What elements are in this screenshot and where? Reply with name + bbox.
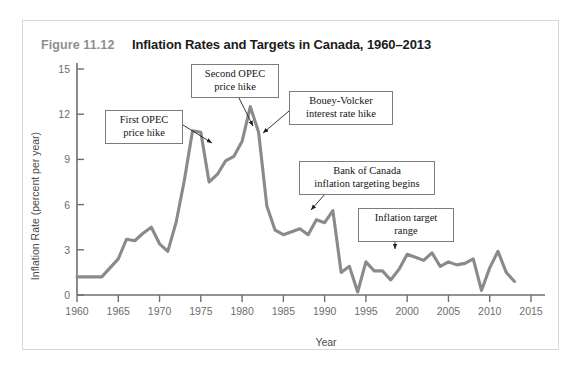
annotation-bouey-volcker: Bouey-Volcker interest rate hike — [289, 91, 393, 125]
x-tick-1965: 1965 — [107, 305, 131, 317]
y-tick-12: 12 — [58, 108, 70, 120]
x-axis-title: Year — [315, 336, 337, 348]
x-tick-2010: 2010 — [478, 305, 502, 317]
annotation-second-opec: Second OPEC price hike — [191, 64, 279, 98]
annotation-bank-of-canada-line2: inflation targeting begins — [305, 178, 429, 191]
x-tick-2000: 2000 — [396, 305, 420, 317]
annotation-first-opec-line1: First OPEC — [111, 114, 177, 127]
y-tick-9: 9 — [64, 153, 70, 165]
y-axis-title: Inflation Rate (percent per year) — [29, 132, 41, 280]
annotation-bank-of-canada: Bank of Canada inflation targeting begin… — [299, 161, 435, 195]
x-tick-2015: 2015 — [519, 305, 543, 317]
annotation-first-opec-line2: price hike — [111, 127, 177, 140]
leader-line-first-opec — [183, 125, 212, 143]
x-tick-1970: 1970 — [148, 305, 172, 317]
x-tick-1980: 1980 — [230, 305, 254, 317]
annotation-bank-of-canada-line1: Bank of Canada — [305, 165, 429, 178]
annotation-bouey-volcker-line1: Bouey-Volcker — [295, 95, 387, 108]
x-tick-1990: 1990 — [313, 305, 337, 317]
x-tick-1975: 1975 — [189, 305, 213, 317]
chart-plot-area: 0369121519601965197019751980198519901995… — [23, 21, 560, 351]
y-tick-15: 15 — [58, 63, 70, 75]
y-tick-6: 6 — [64, 199, 70, 211]
figure-card: Figure 11.12 Inflation Rates and Targets… — [22, 20, 559, 350]
x-tick-1960: 1960 — [65, 305, 89, 317]
annotation-first-opec: First OPEC price hike — [105, 110, 183, 144]
y-tick-0: 0 — [64, 289, 70, 301]
annotation-inflation-target-range: Inflation target range — [358, 208, 454, 242]
annotation-target-range-line2: range — [364, 225, 448, 238]
annotation-second-opec-line2: price hike — [197, 81, 273, 94]
annotation-bouey-volcker-line2: interest rate hike — [295, 108, 387, 121]
x-tick-1985: 1985 — [272, 305, 296, 317]
x-tick-1995: 1995 — [354, 305, 378, 317]
annotation-second-opec-line1: Second OPEC — [197, 68, 273, 81]
x-tick-2005: 2005 — [437, 305, 461, 317]
annotation-target-range-line1: Inflation target — [364, 212, 448, 225]
y-tick-3: 3 — [64, 244, 70, 256]
leader-line-bouey-volcker — [263, 111, 289, 133]
chart-svg: 0369121519601965197019751980198519901995… — [23, 21, 560, 351]
